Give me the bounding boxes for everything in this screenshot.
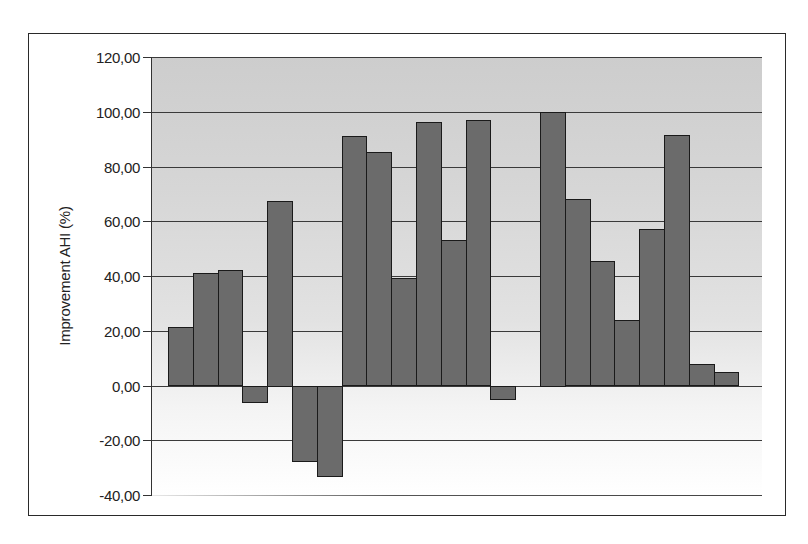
y-tick-label: 20,00 (104, 323, 140, 340)
gridline (152, 112, 762, 113)
y-tick-mark (143, 386, 152, 387)
bar (614, 320, 640, 387)
y-tick-label: 120,00 (96, 49, 140, 66)
gridline (152, 57, 762, 58)
bar (242, 386, 268, 404)
y-tick-mark (143, 495, 152, 496)
y-tick-label: -40,00 (99, 487, 140, 504)
y-tick-label: -20,00 (99, 432, 140, 449)
gridline (152, 440, 762, 441)
y-tick-mark (143, 331, 152, 332)
bar (366, 152, 392, 387)
bar (218, 270, 244, 387)
bar (689, 364, 715, 386)
y-tick-mark (143, 57, 152, 58)
y-tick-mark (143, 112, 152, 113)
bar (267, 201, 293, 387)
y-tick-mark (143, 167, 152, 168)
y-tick-label: 0,00 (112, 378, 140, 395)
bar (565, 199, 591, 386)
gridline (152, 495, 762, 496)
bar (168, 327, 194, 386)
bar (317, 386, 343, 478)
y-axis-title: Improvement AHI (%) (56, 206, 73, 346)
y-tick-label: 40,00 (104, 268, 140, 285)
bar (342, 136, 368, 386)
bar (714, 372, 740, 387)
y-tick-mark (143, 440, 152, 441)
bar (391, 278, 417, 387)
bar (292, 386, 318, 463)
y-tick-label: 60,00 (104, 213, 140, 230)
bar (639, 229, 665, 387)
bar (540, 112, 566, 387)
bar (664, 135, 690, 387)
bar (490, 386, 516, 401)
bar (441, 240, 467, 386)
y-tick-label: 80,00 (104, 159, 140, 176)
bar (590, 261, 616, 387)
bar (466, 120, 492, 387)
bar (193, 273, 219, 386)
y-tick-label: 100,00 (96, 104, 140, 121)
y-tick-mark (143, 221, 152, 222)
y-tick-mark (143, 276, 152, 277)
bar (416, 122, 442, 387)
